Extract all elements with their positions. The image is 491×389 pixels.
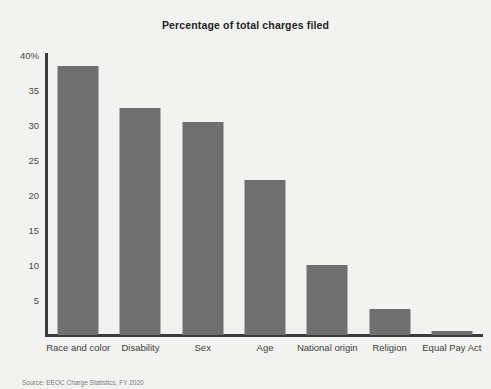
bar-slot bbox=[47, 55, 109, 335]
bar[interactable] bbox=[369, 309, 410, 335]
bar-slot bbox=[172, 55, 234, 335]
plot-area bbox=[47, 55, 483, 335]
y-tick-label: 25 bbox=[0, 155, 39, 166]
bar[interactable] bbox=[182, 122, 223, 335]
bar[interactable] bbox=[58, 66, 99, 335]
x-tick-label: Equal Pay Act bbox=[414, 342, 490, 355]
y-tick-label: 40% bbox=[0, 50, 39, 61]
chart-figure: Percentage of total charges filed 510152… bbox=[0, 0, 491, 389]
y-tick-label: 15 bbox=[0, 225, 39, 236]
y-tick-label: 30 bbox=[0, 120, 39, 131]
bar-slot bbox=[234, 55, 296, 335]
y-tick-label: 5 bbox=[0, 295, 39, 306]
y-tick-label: 20 bbox=[0, 190, 39, 201]
bar-slot bbox=[358, 55, 420, 335]
chart-title: Percentage of total charges filed bbox=[0, 19, 491, 31]
y-tick-label: 10 bbox=[0, 260, 39, 271]
bar-slot bbox=[109, 55, 171, 335]
bar[interactable] bbox=[244, 180, 285, 335]
bar[interactable] bbox=[431, 331, 472, 335]
y-tick-label: 35 bbox=[0, 85, 39, 96]
bar[interactable] bbox=[120, 108, 161, 335]
source-note: Source: EEOC Charge Statistics, FY 2020 bbox=[22, 379, 144, 386]
bar-slot bbox=[421, 55, 483, 335]
bar[interactable] bbox=[307, 265, 348, 335]
bar-slot bbox=[296, 55, 358, 335]
